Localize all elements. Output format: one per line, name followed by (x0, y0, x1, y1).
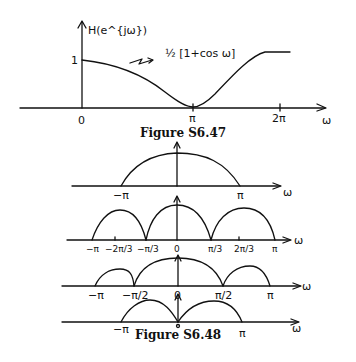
figure-s6-48-plot-1: −π π ω (72, 142, 292, 202)
arc (121, 153, 240, 186)
tick-label: 0 (174, 244, 180, 254)
one-label: 1 (71, 54, 78, 67)
tick-label: −π/3 (137, 244, 159, 254)
tick-label: −π (113, 323, 129, 336)
figure-s6-47: H(e^{jω}) 1 ½ [1+cos ω] 0 π 2π ω Figure … (20, 21, 331, 140)
arc-right (223, 266, 270, 286)
tick-label: π (237, 189, 244, 202)
arc-left (121, 300, 178, 322)
tick-label-2pi: 2π (272, 112, 286, 125)
figure-s6-48-plot-2: −π −2π/3 −π/3 0 π/3 2π/3 π ω (67, 196, 303, 254)
arc-right (211, 208, 275, 240)
tick-label: π (239, 327, 246, 340)
x-label: ω (302, 280, 311, 293)
arc-left (95, 269, 134, 286)
arc-right (178, 301, 242, 322)
tick-label-pi: π (189, 112, 196, 125)
arc-center (146, 205, 211, 240)
x-label: ω (283, 186, 292, 199)
figures-canvas: H(e^{jω}) 1 ½ [1+cos ω] 0 π 2π ω Figure … (0, 0, 356, 362)
tick-label-0: 0 (78, 114, 85, 127)
tick-label: 2π/3 (234, 244, 254, 254)
tick-label: π (267, 289, 274, 302)
tick-label: −π (113, 189, 129, 202)
caption-s6-47: Figure S6.47 (140, 126, 226, 140)
tick-label: π/2 (215, 289, 232, 302)
x-label: ω (292, 322, 301, 335)
x-label: ω (294, 234, 303, 247)
arc-left (92, 210, 146, 240)
x-label: ω (322, 114, 331, 127)
annotation-label: ½ [1+cos ω] (165, 47, 235, 60)
tick-label: π/3 (208, 244, 222, 254)
y-label: H(e^{jω}) (88, 24, 147, 37)
tick-label: π (272, 244, 278, 254)
tick-label: −π (86, 244, 100, 254)
caption-s6-48: Figure S6.48 (135, 328, 221, 342)
response-curve (82, 52, 290, 107)
tick-label: −2π/3 (105, 244, 132, 254)
figure-s6-48-plot-3: −π −π/2 0 π/2 π ω (62, 255, 311, 302)
tick-label: −π (88, 289, 104, 302)
